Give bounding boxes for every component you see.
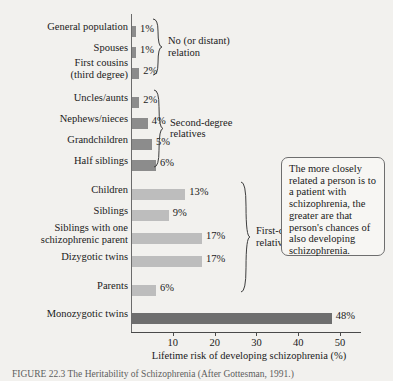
bar-row: 48% [131, 313, 361, 324]
category-label: General population [2, 21, 128, 33]
bar-value-label: 48% [336, 310, 355, 321]
x-tick [215, 332, 216, 336]
category-label: Parents [2, 280, 128, 292]
x-tick-label: 20 [203, 337, 227, 349]
bar-row: 2% [131, 97, 361, 108]
bar [131, 285, 156, 296]
bar [131, 68, 139, 79]
group-bracket [240, 181, 251, 293]
group-bracket [153, 89, 164, 168]
bar-value-label: 9% [173, 207, 187, 218]
category-label-column: General populationSpousesFirst cousins (… [0, 0, 128, 340]
category-label: Monozygotic twins [2, 308, 128, 320]
group-bracket-label: Second-degree relatives [170, 117, 232, 140]
category-label: Siblings [2, 205, 128, 217]
bar [131, 313, 332, 324]
x-tick-label: 30 [244, 337, 268, 349]
callout-text: The more closely related a person is to … [289, 163, 376, 256]
figure-caption: FIGURE 22.3 The Heritability of Schizoph… [12, 369, 384, 380]
bar [131, 256, 202, 267]
bar-value-label: 17% [206, 230, 225, 241]
x-tick [173, 332, 174, 336]
group-bracket [152, 18, 163, 76]
bar [131, 233, 202, 244]
x-tick [340, 332, 341, 336]
bar [131, 118, 148, 129]
category-label: Half siblings [2, 155, 128, 167]
category-label: Spouses [2, 42, 128, 54]
x-tick [298, 332, 299, 336]
bar-value-label: 13% [189, 186, 208, 197]
category-label: First cousins (third degree) [2, 57, 128, 80]
x-axis-label: Lifetime risk of developing schizophreni… [131, 350, 367, 361]
category-label: Grandchildren [2, 134, 128, 146]
bar-value-label: 6% [160, 282, 174, 293]
group-bracket-label: No (or distant) relation [168, 35, 230, 58]
category-label: Dizygotic twins [2, 251, 128, 263]
x-axis-line [131, 332, 361, 333]
y-axis-line [131, 14, 132, 332]
x-tick [256, 332, 257, 336]
bar [131, 210, 169, 221]
bar [131, 97, 139, 108]
bar-row: 4% [131, 118, 361, 129]
x-tick-label: 50 [328, 337, 352, 349]
bar [131, 189, 185, 200]
category-label: Nephews/nieces [2, 113, 128, 125]
x-tick-label: 40 [286, 337, 310, 349]
bar-row: 1% [131, 26, 361, 37]
category-label: Uncles/aunts [2, 92, 128, 104]
bar-row: 5% [131, 139, 361, 150]
callout-box: The more closely related a person is to … [281, 157, 385, 256]
bar-value-label: 17% [206, 253, 225, 264]
x-tick-label: 10 [161, 337, 185, 349]
bar-row: 1% [131, 47, 361, 58]
bar [131, 139, 152, 150]
bar-row: 2% [131, 68, 361, 79]
category-label: Siblings with one schizophrenic parent [2, 222, 128, 245]
figure-schizophrenia-risk: General populationSpousesFirst cousins (… [0, 0, 393, 381]
category-label: Children [2, 184, 128, 196]
